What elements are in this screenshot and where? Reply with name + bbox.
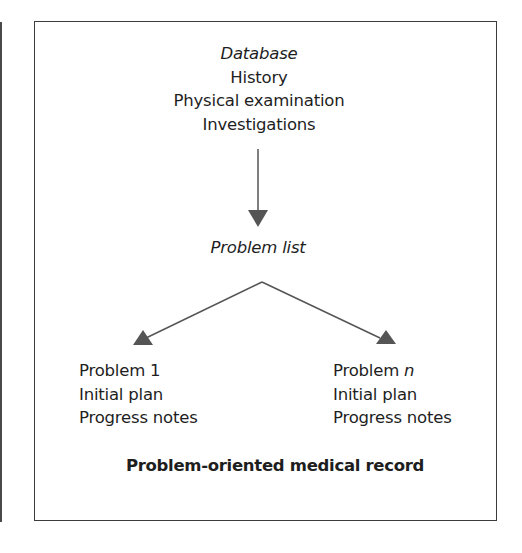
problem-1-label: Problem 1	[79, 359, 160, 383]
arrow-problem-list-to-problem-n	[262, 282, 396, 344]
problem-n-prefix: Problem	[333, 361, 404, 380]
problem-n-initial-plan: Initial plan	[333, 383, 417, 407]
diagram-title: Problem-oriented medical record	[126, 454, 424, 478]
problem-1-progress-notes: Progress notes	[79, 406, 198, 430]
problem-1-initial-plan: Initial plan	[79, 383, 163, 407]
problem-n-progress-notes: Progress notes	[333, 406, 452, 430]
arrow-problem-list-to-problem-1	[133, 282, 262, 345]
problem-n-variable: n	[404, 361, 414, 380]
problem-n-label: Problem n	[333, 359, 414, 383]
arrow-database-to-problem-list	[248, 149, 268, 227]
